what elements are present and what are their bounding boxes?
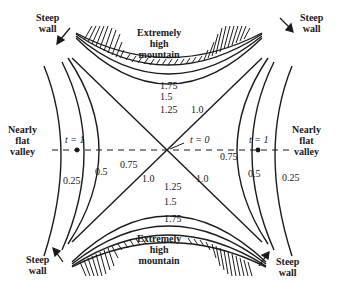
label-contour-top-1.25: 1.25 [160,104,178,115]
label-mountain-top: Extremelyhighmountain [137,27,181,60]
label-contour-top-1.75: 1.75 [160,80,178,91]
label-contour-left-0.5: 0.5 [95,166,108,177]
label-contour-center-left-1.0: 1.0 [142,173,155,184]
point-left-t1 [75,148,80,153]
label-t1-left: t = 1 [65,134,85,145]
point-right-t1 [256,148,261,153]
label-contour-right-0.75: 0.75 [220,151,238,162]
saddle-contour-diagram: Steepwall Steepwall Steepwall Steepwall … [0,0,337,285]
label-steep-wall-bottom-left: Steepwall [26,254,49,276]
label-contour-bottom-1.5: 1.5 [164,196,177,207]
label-contour-left-0.75: 0.75 [120,159,138,170]
label-contour-right-0.5: 0.5 [248,168,261,179]
label-mountain-bottom: Extremelyhighmountain [137,233,181,266]
label-contour-bottom-1.75: 1.75 [164,213,182,224]
label-steep-wall-top-right: Steepwall [300,12,323,34]
contour-right-0.25 [275,66,292,256]
label-contour-right-0.25: 0.25 [282,172,300,183]
label-steep-wall-top-left: Steepwall [36,12,59,34]
label-t1-right: t = 1 [249,134,269,145]
arrow-bottom-left-head [53,248,60,256]
label-valley-right: Nearlyflatvalley [292,124,321,157]
label-steep-wall-bottom-right: Steepwall [276,256,299,278]
label-valley-left: Nearlyflatvalley [8,124,37,157]
arrow-bottom-right-head [262,252,269,259]
label-contour-bottom-1.25: 1.25 [164,181,182,192]
contour-left-0.25 [44,66,61,256]
label-contour-left-0.25: 0.25 [63,175,81,186]
label-contour-top-1.5: 1.5 [160,91,173,102]
label-contour-center-right-1.0: 1.0 [196,173,209,184]
label-t0-center: t = 0 [190,134,210,145]
label-contour-top-1.0: 1.0 [191,104,204,115]
